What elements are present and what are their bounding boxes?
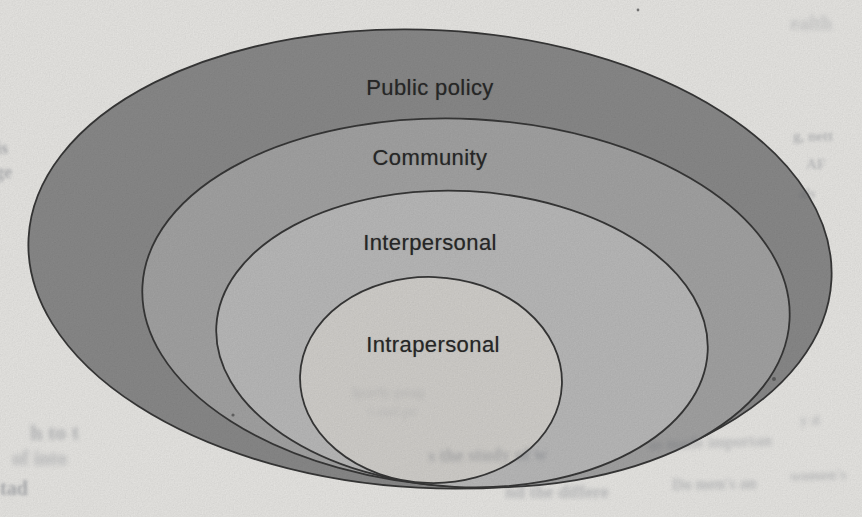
nested-ellipse-diagram (0, 0, 862, 517)
scanned-book-page: Public policyCommunityInterpersonalIntra… (0, 0, 862, 517)
scan-grain-overlay (0, 0, 862, 517)
